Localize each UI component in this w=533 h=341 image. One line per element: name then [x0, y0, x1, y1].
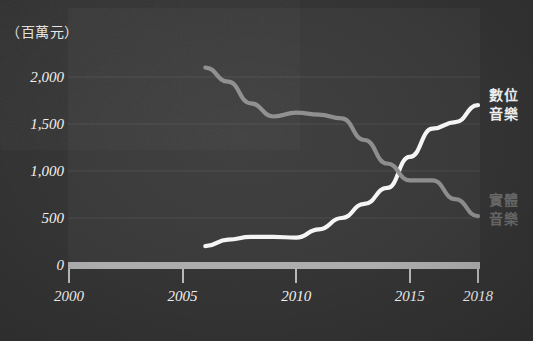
- x-tick: [409, 269, 411, 283]
- series-lines: [205, 68, 478, 247]
- x-tick-label: 2018: [463, 288, 493, 305]
- legend-physical-line2: 音樂: [489, 210, 519, 229]
- legend-digital-line1: 數位: [489, 87, 519, 103]
- legend-digital-line2: 音樂: [489, 105, 519, 124]
- x-axis-line: [68, 262, 480, 269]
- x-tick-label: 2010: [281, 288, 311, 305]
- y-tick-label: 0: [4, 257, 64, 274]
- y-tick-label: 2,000: [4, 69, 64, 86]
- legend-item-digital: 數位 音樂: [489, 86, 519, 124]
- x-tick-label: 2000: [54, 288, 84, 305]
- legend-item-physical: 實體 音樂: [489, 191, 519, 229]
- y-tick-label: 500: [4, 210, 64, 227]
- legend-physical-line1: 實體: [489, 192, 519, 208]
- y-tick-label: 1,000: [4, 163, 64, 180]
- x-tick: [477, 269, 479, 283]
- y-tick-label: 1,500: [4, 116, 64, 133]
- x-tick: [68, 269, 70, 283]
- x-tick-label: 2005: [168, 288, 198, 305]
- series-line-digital: [205, 105, 478, 246]
- x-tick: [182, 269, 184, 283]
- x-tick: [295, 269, 297, 283]
- series-line-physical: [205, 68, 478, 217]
- x-tick-label: 2015: [395, 288, 425, 305]
- chart-figure: （百萬元） 2,0001,5001,0005000 20002005201020…: [0, 0, 533, 341]
